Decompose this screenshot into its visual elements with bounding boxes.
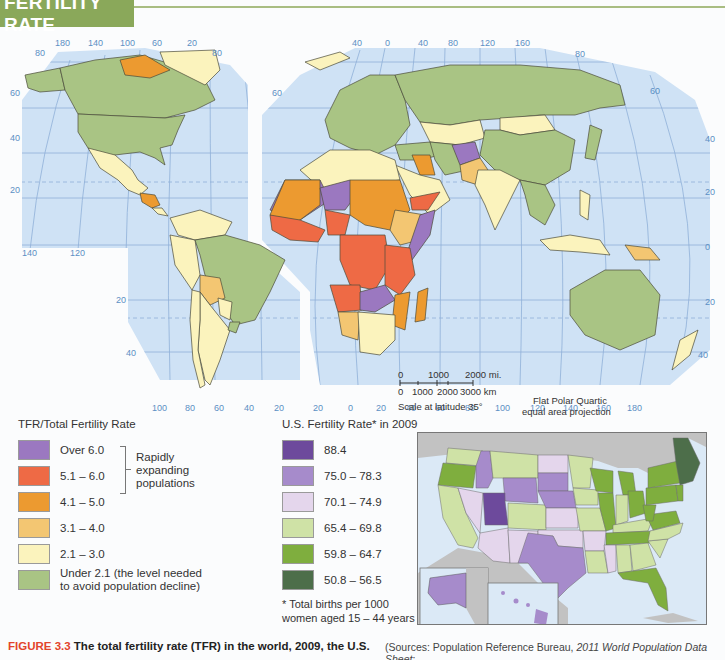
svg-text:80: 80 xyxy=(212,48,222,58)
svg-text:1000: 1000 xyxy=(428,369,449,380)
svg-text:80: 80 xyxy=(575,49,585,59)
legend-label: 70.1 – 74.9 xyxy=(324,496,382,509)
svg-text:60: 60 xyxy=(10,88,20,98)
swatch-5-1-6-0 xyxy=(18,466,50,486)
svg-text:60: 60 xyxy=(272,88,282,98)
bracket-tick xyxy=(126,469,131,470)
pennsylvania xyxy=(646,485,678,505)
figure-caption: FIGURE 3.3 The total fertility rate (TFR… xyxy=(8,640,370,652)
legend-label: 65.4 – 69.8 xyxy=(324,522,382,535)
svg-text:40: 40 xyxy=(10,133,20,143)
us-fertility-map xyxy=(417,432,707,625)
us-legend-item: 50.8 – 56.5 xyxy=(282,567,422,593)
tfr-legend: TFR/Total Fertility Rate Over 6.0 5.1 – … xyxy=(18,418,288,593)
title-banner: FERTILITY RATE xyxy=(0,0,134,27)
caption-text: The total fertility rate (TFR) in the wo… xyxy=(74,640,370,652)
svg-text:140: 140 xyxy=(88,38,103,48)
tfr-legend-item: 4.1 – 5.0 xyxy=(18,489,288,515)
tfr-legend-title: TFR/Total Fertility Rate xyxy=(18,418,288,430)
rapid-expansion-bracket xyxy=(120,446,126,494)
alaska xyxy=(25,68,65,92)
svg-text:equal area projection: equal area projection xyxy=(522,406,611,417)
svg-text:60: 60 xyxy=(214,403,224,413)
louisiana xyxy=(585,551,608,573)
svg-text:20: 20 xyxy=(376,403,386,413)
svg-text:20: 20 xyxy=(187,38,197,48)
swatch-3-1-4-0 xyxy=(18,518,50,538)
svg-text:2000: 2000 xyxy=(437,386,458,397)
cuba xyxy=(643,613,698,623)
swatch-70-74 xyxy=(282,492,314,512)
wyoming xyxy=(503,478,538,503)
svg-text:180: 180 xyxy=(55,38,70,48)
svg-text:1000: 1000 xyxy=(412,386,433,397)
minnesota xyxy=(568,455,593,488)
bracket-note: Rapidly expanding populations xyxy=(136,451,226,490)
title-rule xyxy=(134,6,725,8)
hawaii-island xyxy=(526,603,530,607)
svg-text:Flat Polar Quartic: Flat Polar Quartic xyxy=(533,395,607,406)
legend-label: 2.1 – 3.0 xyxy=(60,548,105,561)
ohio xyxy=(628,491,646,518)
svg-text:20: 20 xyxy=(116,295,126,305)
swatch-59-64 xyxy=(282,544,314,564)
iowa xyxy=(573,488,598,505)
utah xyxy=(483,493,508,525)
legend-label-line: Under 2.1 (the level needed xyxy=(60,567,202,579)
indiana xyxy=(616,495,628,525)
florida xyxy=(618,568,668,611)
philippines xyxy=(580,190,590,220)
svg-text:20: 20 xyxy=(274,403,284,413)
us-legend-title: U.S. Fertility Rate* in 2009 xyxy=(282,418,422,430)
svg-text:20: 20 xyxy=(705,187,715,197)
svg-text:40: 40 xyxy=(418,38,428,48)
kansas xyxy=(546,508,578,528)
swatch-65-69 xyxy=(282,518,314,538)
alabama xyxy=(616,545,632,573)
svg-text:80: 80 xyxy=(448,38,458,48)
svg-text:40: 40 xyxy=(698,350,708,360)
legend-label: 5.1 – 6.0 xyxy=(60,470,105,483)
legend-label: 4.1 – 5.0 xyxy=(60,496,105,509)
svg-text:140: 140 xyxy=(22,248,37,258)
hawaii-inset xyxy=(488,583,558,625)
legend-label: Under 2.1 (the level needed to avoid pop… xyxy=(60,567,202,593)
swatch-under-2-1 xyxy=(18,570,50,590)
svg-text:20: 20 xyxy=(10,185,20,195)
svg-text:100: 100 xyxy=(120,38,135,48)
north-dakota xyxy=(538,455,568,473)
svg-text:0: 0 xyxy=(705,242,710,252)
svg-text:100: 100 xyxy=(495,403,510,413)
swatch-over-6 xyxy=(18,440,50,460)
us-footnote: * Total births per 1000 women aged 15 – … xyxy=(282,597,422,625)
sources-prefix: (Sources: Population Reference Bureau, xyxy=(385,641,576,653)
oregon xyxy=(438,463,476,488)
tfr-legend-item: Under 2.1 (the level needed to avoid pop… xyxy=(18,567,288,593)
svg-text:80: 80 xyxy=(35,48,45,58)
sources-suffix: ; xyxy=(412,653,415,660)
wisconsin xyxy=(590,468,613,493)
svg-text:180: 180 xyxy=(627,403,642,413)
svg-text:2000 mi.: 2000 mi. xyxy=(465,369,501,380)
tfr-legend-item: 3.1 – 4.0 xyxy=(18,515,288,541)
legend-label: 50.8 – 56.5 xyxy=(324,574,382,587)
svg-text:0: 0 xyxy=(398,386,403,397)
us-legend-item: 88.4 xyxy=(282,437,422,463)
svg-text:60: 60 xyxy=(650,86,660,96)
world-fertility-map: 180 140 100 60 20 80 80 60 40 20 140 120… xyxy=(0,30,725,420)
svg-text:3000 km: 3000 km xyxy=(460,386,497,397)
sources-note: (Sources: Population Reference Bureau, 2… xyxy=(385,641,725,660)
svg-text:40: 40 xyxy=(126,348,136,358)
swatch-75-78 xyxy=(282,466,314,486)
footnote-line: * Total births per 1000 xyxy=(282,598,389,610)
svg-text:20: 20 xyxy=(705,297,715,307)
swatch-50-56 xyxy=(282,570,314,590)
legend-label: 3.1 – 4.0 xyxy=(60,522,105,535)
swatch-4-1-5-0 xyxy=(18,492,50,512)
legend-label: 75.0 – 78.3 xyxy=(324,470,382,483)
us-legend-item: 70.1 – 74.9 xyxy=(282,489,422,515)
us-legend-item: 65.4 – 69.8 xyxy=(282,515,422,541)
projection-note: Flat Polar Quartic equal area projection xyxy=(522,395,611,417)
hawaii-island xyxy=(501,591,505,595)
swatch-88-4 xyxy=(282,440,314,460)
